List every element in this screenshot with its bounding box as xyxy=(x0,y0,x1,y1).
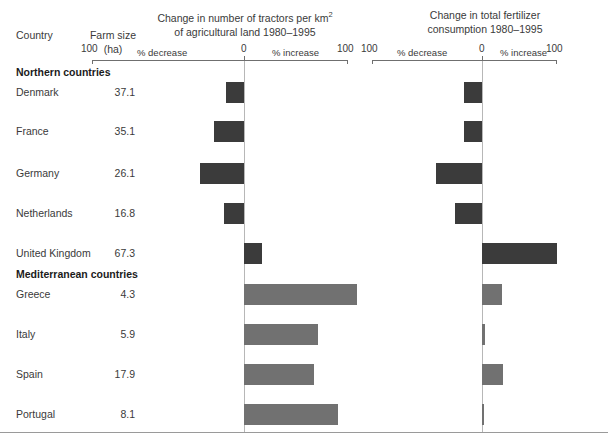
farm-size-netherlands: 16.8 xyxy=(95,207,135,219)
tractors-chart-title: Change in number of tractors per km2 of … xyxy=(135,8,355,39)
tractors-axis-line xyxy=(92,60,348,61)
tractors-bar-greece xyxy=(244,284,357,305)
tractors-bar-netherlands xyxy=(224,203,244,224)
tractors-bar-france xyxy=(214,121,244,142)
tractors-title-superscript: 2 xyxy=(328,10,332,19)
fertilizer-bar-germany xyxy=(436,163,482,184)
header-country: Country xyxy=(16,29,53,41)
tractors-tick-label-right: 100 xyxy=(337,43,354,54)
farm-size-france: 35.1 xyxy=(95,125,135,137)
tractors-title-line2: of agricultural land 1980–1995 xyxy=(174,26,315,38)
tractors-bar-germany xyxy=(200,163,244,184)
farm-size-germany: 26.1 xyxy=(95,167,135,179)
row-label-denmark: Denmark xyxy=(16,86,59,98)
tractors-bar-italy xyxy=(244,324,318,345)
fertilizer-bar-spain xyxy=(482,364,503,385)
fertilizer-bar-italy xyxy=(482,324,485,345)
row-label-france: France xyxy=(16,125,49,137)
fertilizer-title-line2: consumption 1980–1995 xyxy=(427,23,542,35)
fertilizer-axis-cap-left xyxy=(372,60,373,64)
tractors-label-increase: % increase xyxy=(272,47,319,58)
chart-page: Country Farm size (ha) Change in number … xyxy=(0,0,608,438)
tractors-bar-portugal xyxy=(244,404,338,425)
farm-size-portugal: 8.1 xyxy=(95,408,135,420)
fertilizer-bar-france xyxy=(464,121,482,142)
fertilizer-tick-label-zero: 0 xyxy=(479,43,485,54)
fertilizer-bar-greece xyxy=(482,284,502,305)
row-label-united-kingdom: United Kingdom xyxy=(16,247,91,259)
row-label-portugal: Portugal xyxy=(16,408,55,420)
tractors-bar-united-kingdom xyxy=(244,243,262,264)
farm-size-italy: 5.9 xyxy=(95,328,135,340)
fertilizer-label-increase: % increase xyxy=(500,47,547,58)
tractors-tick-label-left: 100 xyxy=(81,43,98,54)
row-label-germany: Germany xyxy=(16,167,59,179)
fertilizer-tick-label-right: 100 xyxy=(546,43,563,54)
row-label-netherlands: Netherlands xyxy=(16,207,73,219)
fertilizer-axis-line xyxy=(372,60,557,61)
bottom-divider xyxy=(0,432,608,433)
fertilizer-title-line1: Change in total fertilizer xyxy=(430,9,540,21)
farm-size-denmark: 37.1 xyxy=(95,86,135,98)
group-label-mediterranean: Mediterranean countries xyxy=(16,268,138,280)
tractors-tick-label-zero: 0 xyxy=(241,43,247,54)
farm-size-spain: 17.9 xyxy=(95,368,135,380)
tractors-axis-cap-left xyxy=(92,60,93,64)
fertilizer-bar-portugal xyxy=(482,404,484,425)
fertilizer-bar-denmark xyxy=(464,82,482,103)
fertilizer-chart-title: Change in total fertilizer consumption 1… xyxy=(400,8,570,36)
fertilizer-bar-united-kingdom xyxy=(482,243,557,264)
tractors-label-decrease: % decrease xyxy=(137,47,187,58)
farm-size-united-kingdom: 67.3 xyxy=(95,247,135,259)
tractors-axis-cap-right xyxy=(347,60,348,64)
fertilizer-label-decrease: % decrease xyxy=(397,47,447,58)
row-label-spain: Spain xyxy=(16,368,43,380)
farm-size-greece: 4.3 xyxy=(95,288,135,300)
row-label-greece: Greece xyxy=(16,288,50,300)
tractors-title-line1: Change in number of tractors per km xyxy=(157,12,328,24)
fertilizer-axis-cap-right xyxy=(556,60,557,64)
header-farm-size: Farm size xyxy=(85,29,141,41)
fertilizer-bar-netherlands xyxy=(455,203,483,224)
fertilizer-tick-label-left: 100 xyxy=(361,43,378,54)
tractors-bar-denmark xyxy=(226,82,244,103)
tractors-bar-spain xyxy=(244,364,314,385)
group-label-northern: Northern countries xyxy=(16,66,111,78)
row-label-italy: Italy xyxy=(16,328,35,340)
